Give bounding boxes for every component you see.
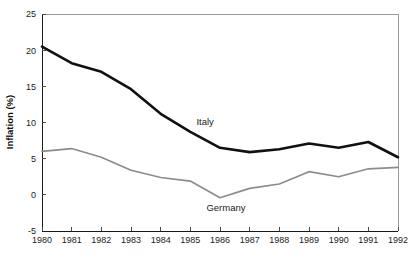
chart-canvas: -50510152025 Inflation (%) 1980198119821… xyxy=(0,0,413,259)
x-tick-label: 1987 xyxy=(240,235,260,245)
x-tick-label: 1992 xyxy=(388,235,408,245)
y-tick-label: 10 xyxy=(26,118,36,128)
y-tick-label: 20 xyxy=(26,46,36,56)
y-tick-label: 5 xyxy=(31,154,36,164)
series-label-italy: Italy xyxy=(196,116,214,127)
y-tick-label: 25 xyxy=(26,9,36,19)
x-tick-label: 1986 xyxy=(210,235,230,245)
inflation-line-chart: -50510152025 Inflation (%) 1980198119821… xyxy=(0,0,413,259)
x-tick-label: 1991 xyxy=(358,235,378,245)
x-tick-label: 1984 xyxy=(151,235,171,245)
x-tick-label: 1983 xyxy=(121,235,141,245)
x-tick-label: 1990 xyxy=(329,235,349,245)
y-axis-title: Inflation (%) xyxy=(4,95,15,149)
x-tick-label: 1981 xyxy=(62,235,82,245)
x-tick-label: 1985 xyxy=(180,235,200,245)
x-tick-label: 1989 xyxy=(299,235,319,245)
series-label-germany: Germany xyxy=(206,202,245,213)
y-tick-label: 15 xyxy=(26,82,36,92)
x-tick-label: 1988 xyxy=(269,235,289,245)
x-tick-label: 1982 xyxy=(91,235,111,245)
chart-background xyxy=(0,0,413,259)
x-tick-label: 1980 xyxy=(32,235,52,245)
y-tick-label: 0 xyxy=(31,190,36,200)
